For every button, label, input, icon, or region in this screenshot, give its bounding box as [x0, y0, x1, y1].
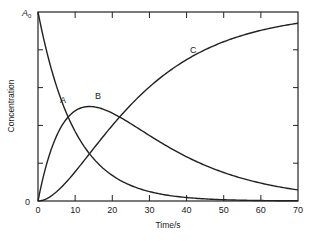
- x-tick-label: 10: [70, 205, 80, 215]
- curve-labels: ABC: [60, 45, 197, 105]
- x-tick-label: 20: [107, 205, 117, 215]
- concentration-chart: ABC 010203040506070 0 A0 Time/s Concentr…: [0, 0, 313, 241]
- y-tick-label-zero: 0: [25, 197, 30, 207]
- x-tick-label: 70: [293, 205, 303, 215]
- axis-ticks: [38, 12, 298, 201]
- plot-frame: [38, 12, 298, 201]
- x-tick-label: 0: [35, 205, 40, 215]
- curve-label-c: C: [190, 45, 197, 55]
- plot-area: ABC: [38, 12, 298, 201]
- curve-label-a: A: [60, 95, 66, 105]
- curve-label-b: B: [95, 91, 101, 101]
- curve-c: [38, 23, 298, 201]
- curve-a: [38, 12, 298, 201]
- y-tick-label-a0: A0: [21, 8, 32, 19]
- x-tick-label: 60: [256, 205, 266, 215]
- curves: [38, 12, 298, 201]
- x-axis-title: Time/s: [155, 220, 180, 230]
- x-tick-label: 40: [182, 205, 192, 215]
- x-tick-labels: 010203040506070: [35, 205, 303, 215]
- y-axis-title: Concentration: [6, 79, 16, 132]
- x-tick-label: 50: [219, 205, 229, 215]
- x-tick-label: 30: [144, 205, 154, 215]
- curve-b: [38, 107, 298, 202]
